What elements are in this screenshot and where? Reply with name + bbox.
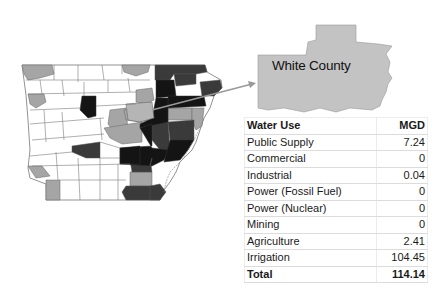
row-value: 7.24 (376, 134, 427, 151)
table-row: Power (Fossil Fuel)0 (245, 184, 428, 201)
table-row: Power (Nuclear)0 (245, 200, 428, 217)
row-value: 0 (376, 184, 427, 201)
header-mgd: MGD (376, 118, 427, 135)
row-value: 104.45 (376, 250, 427, 267)
row-label: Agriculture (245, 233, 377, 250)
white-county-on-map (126, 102, 154, 122)
row-value: 0 (376, 200, 427, 217)
total-label: Total (245, 266, 377, 283)
row-label: Public Supply (245, 134, 377, 151)
row-value: 0 (376, 217, 427, 234)
header-water-use: Water Use (245, 118, 377, 135)
water-use-figure: White County Water Use MGD Public Supply… (0, 0, 448, 295)
row-value: 0.04 (376, 167, 427, 184)
row-value: 2.41 (376, 233, 427, 250)
row-label: Commercial (245, 151, 377, 168)
table-row: Mining0 (245, 217, 428, 234)
row-label: Power (Nuclear) (245, 200, 377, 217)
table-row: Industrial0.04 (245, 167, 428, 184)
table-row: Irrigation104.45 (245, 250, 428, 267)
table-row: Commercial0 (245, 151, 428, 168)
table-header-row: Water Use MGD (245, 118, 428, 135)
total-row: Total114.14 (245, 266, 428, 283)
table-row: Public Supply7.24 (245, 134, 428, 151)
row-label: Mining (245, 217, 377, 234)
row-label: Industrial (245, 167, 377, 184)
arrowhead-icon (248, 81, 256, 88)
total-value: 114.14 (376, 266, 427, 283)
row-value: 0 (376, 151, 427, 168)
table-row: Agriculture2.41 (245, 233, 428, 250)
row-label: Irrigation (245, 250, 377, 267)
water-use-table: Water Use MGD Public Supply7.24 Commerci… (244, 117, 428, 283)
row-label: Power (Fossil Fuel) (245, 184, 377, 201)
county-name-label: White County (272, 58, 351, 73)
